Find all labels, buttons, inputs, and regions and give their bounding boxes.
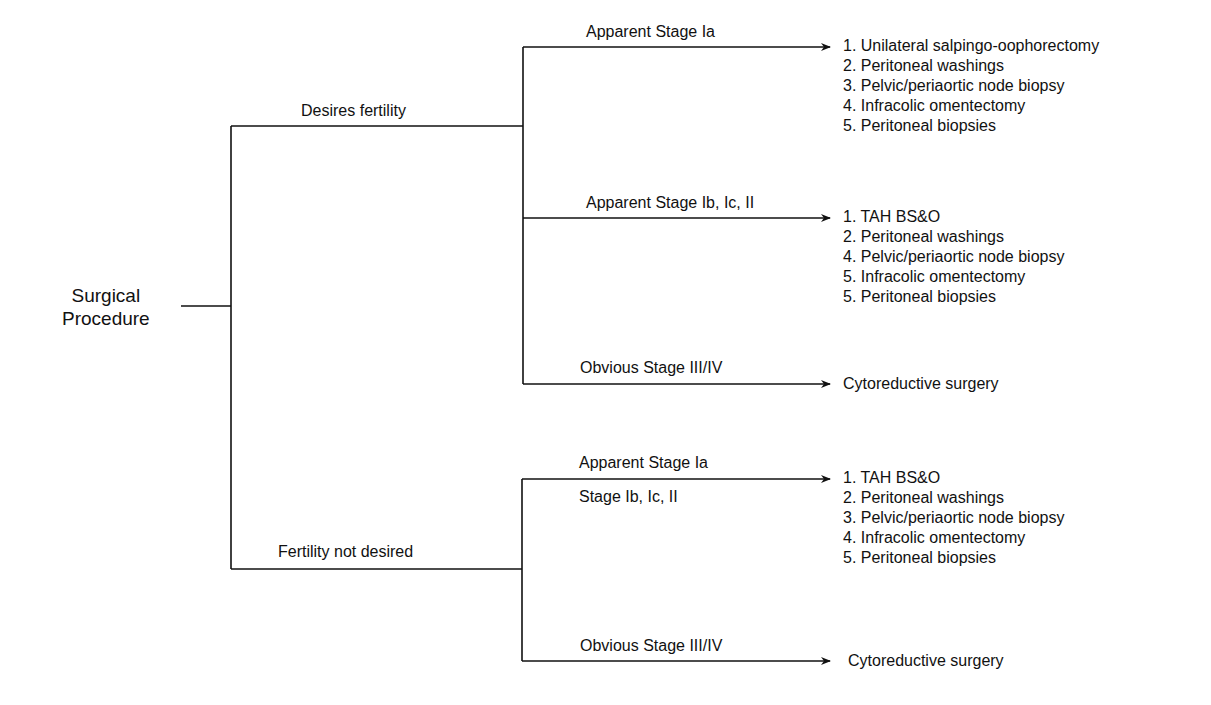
list-item: 5. Peritoneal biopsies xyxy=(843,548,1064,568)
outcome-stage-iii-iv-nofertility: Cytoreductive surgery xyxy=(848,651,1004,671)
list-item: 2. Peritoneal washings xyxy=(843,56,1099,76)
list-item: 1. Unilateral salpingo-oophorectomy xyxy=(843,36,1099,56)
list-item: Cytoreductive surgery xyxy=(843,374,999,394)
root-label-line2: Procedure xyxy=(62,307,150,330)
list-item: 2. Peritoneal washings xyxy=(843,227,1064,247)
list-item: 5. Infracolic omentectomy xyxy=(843,267,1064,287)
outcome-list-stage-ia: 1. Unilateral salpingo-oophorectomy 2. P… xyxy=(843,36,1099,136)
list-item: 3. Pelvic/periaortic node biopsy xyxy=(843,76,1099,96)
sub-label-stage-iii-iv-nofertility: Obvious Stage III/IV xyxy=(580,636,722,656)
list-item: 5. Peritoneal biopsies xyxy=(843,287,1064,307)
sub-label-stage-ib-ic-ii: Apparent Stage Ib, Ic, II xyxy=(586,193,754,213)
list-item: 2. Peritoneal washings xyxy=(843,488,1064,508)
root-label-line1: Surgical xyxy=(62,284,150,307)
outcome-stage-iii-iv: Cytoreductive surgery xyxy=(843,374,999,394)
list-item: 1. TAH BS&O xyxy=(843,207,1064,227)
list-item: 4. Infracolic omentectomy xyxy=(843,96,1099,116)
root-node: Surgical Procedure xyxy=(62,284,150,330)
outcome-list-nofertility: 1. TAH BS&O 2. Peritoneal washings 3. Pe… xyxy=(843,468,1064,568)
branch-label-fertility-not-desired: Fertility not desired xyxy=(278,542,413,562)
list-item: Cytoreductive surgery xyxy=(848,651,1004,671)
list-item: 3. Pelvic/periaortic node biopsy xyxy=(843,508,1064,528)
branch-label-desires-fertility: Desires fertility xyxy=(301,101,406,121)
sub-label-stage-iii-iv: Obvious Stage III/IV xyxy=(580,358,722,378)
sub-label-stage-ib-ic-ii-nofertility: Stage Ib, Ic, II xyxy=(579,487,678,507)
list-item: 1. TAH BS&O xyxy=(843,468,1064,488)
sub-label-stage-ia-nofertility: Apparent Stage Ia xyxy=(579,453,708,473)
list-item: 4. Pelvic/periaortic node biopsy xyxy=(843,247,1064,267)
sub-label-stage-ia: Apparent Stage Ia xyxy=(586,22,715,42)
list-item: 5. Peritoneal biopsies xyxy=(843,116,1099,136)
list-item: 4. Infracolic omentectomy xyxy=(843,528,1064,548)
outcome-list-stage-ib-ic-ii: 1. TAH BS&O 2. Peritoneal washings 4. Pe… xyxy=(843,207,1064,307)
